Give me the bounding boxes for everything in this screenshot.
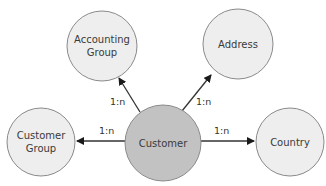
cardinality-label: 1:n (196, 96, 211, 107)
entity-label: Customer (17, 130, 66, 141)
cardinality-label: 1:n (110, 96, 125, 107)
entity-node-accounting-group: AccountingGroup (67, 11, 137, 81)
entity-label: Address (218, 39, 258, 50)
er-diagram: CustomerAccountingGroupAddressCustomerGr… (0, 0, 326, 186)
diagram-canvas: CustomerAccountingGroupAddressCustomerGr… (0, 0, 326, 186)
nodes-layer: CustomerAccountingGroupAddressCustomerGr… (7, 9, 324, 181)
entity-node-customer: Customer (125, 105, 201, 181)
entity-label: Group (26, 143, 56, 154)
cardinality-label: 1:n (99, 125, 114, 136)
entity-node-customer-group: CustomerGroup (7, 108, 75, 176)
cardinality-label: 1:n (214, 125, 229, 136)
entity-label: Customer (139, 138, 188, 149)
entity-label: Accounting (74, 34, 130, 45)
entity-circle (67, 11, 137, 81)
entity-node-country: Country (256, 108, 324, 176)
entity-label: Group (87, 47, 117, 58)
entity-circle (7, 108, 75, 176)
entity-label: Country (270, 137, 310, 148)
entity-node-address: Address (203, 9, 273, 79)
